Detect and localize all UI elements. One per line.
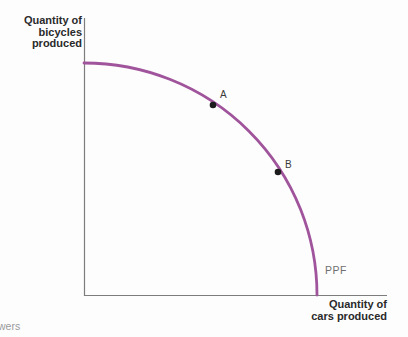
point-b-label: B	[285, 160, 292, 170]
ppf-plot-canvas	[0, 0, 408, 337]
x-axis-label-line2: cars produced	[311, 311, 387, 323]
x-axis-label: Quantity of cars produced	[311, 299, 387, 322]
y-axis-label-line1: Quantity of	[0, 15, 82, 27]
y-axis-label: Quantity of bicycles produced	[0, 15, 82, 50]
x-axis-label-line1: Quantity of	[311, 299, 387, 311]
point-b-dot	[275, 169, 282, 176]
ppf-figure: Quantity of bicycles produced Quantity o…	[0, 0, 408, 337]
ppf-curve	[84, 63, 317, 295]
y-axis-label-line2: bicycles produced	[0, 27, 82, 50]
point-a-dot	[210, 102, 217, 109]
truncated-page-text: wers	[0, 321, 20, 332]
ppf-curve-label: PPF	[325, 265, 347, 276]
point-a-label: A	[220, 90, 227, 100]
